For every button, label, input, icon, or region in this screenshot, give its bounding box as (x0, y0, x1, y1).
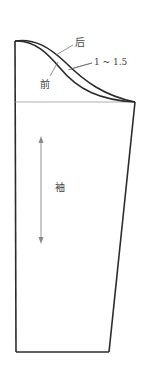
arrow-down-icon (39, 237, 44, 244)
back-label: 后 (75, 38, 85, 48)
back-cap-curve (15, 40, 135, 102)
back-leader-line (56, 45, 73, 55)
offset-label: 1 ~ 1.5 (94, 58, 127, 67)
front-leader-line (50, 62, 58, 76)
arrow-up-icon (39, 136, 44, 143)
sleeve-label: 袖 (55, 183, 65, 193)
sleeve-right-edge (109, 102, 135, 352)
front-label: 前 (40, 80, 50, 90)
sleeve-left-edge (15, 41, 16, 352)
offset-leader-line-2 (73, 63, 92, 68)
